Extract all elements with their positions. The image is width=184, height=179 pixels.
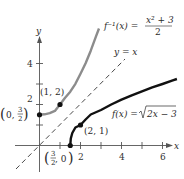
identity-line-label: y = x [113,47,137,57]
point-3-2-0 [68,143,73,148]
y-tick-label-2: 2 [27,94,33,104]
svg-text:): ) [68,150,73,166]
label-point-3-2-0: ( 3 2 , 0 ) [44,150,73,167]
inverse-function-curve [40,29,100,115]
svg-text:): ) [23,106,28,122]
x-axis-label: x [174,141,179,151]
svg-text:(: ( [0,106,5,122]
svg-text:f(x) =: f(x) = [111,109,138,119]
svg-text:x² + 3: x² + 3 [146,15,174,25]
point-0-3-2 [37,112,42,117]
y-axis-arrow-icon [37,36,42,43]
x-tick-label-2: 2 [78,152,84,162]
x-axis-arrow-icon [166,143,173,148]
svg-text:f⁻¹(x) =: f⁻¹(x) = [103,21,138,31]
y-axis-label: y [35,26,42,36]
function-inverse-graph: 2 4 6 2 4 x y (1, 2) (2, 1) ( 0, 3 2 ) (… [0,0,184,179]
y-tick-label-4: 4 [27,59,33,69]
function-equation: f(x) = 2x − 3 [111,106,177,119]
svg-text:2: 2 [18,115,22,123]
svg-text:0,: 0, [6,110,15,120]
point-1-2 [57,102,62,107]
label-point-0-3-2: ( 0, 3 2 ) [0,106,28,123]
svg-text:, 0: , 0 [55,154,67,164]
svg-text:2: 2 [155,27,161,37]
svg-text:(: ( [44,150,49,166]
inverse-function-equation: f⁻¹(x) = x² + 3 2 [103,15,174,37]
axes: 2 4 6 2 4 x y [15,26,179,172]
x-tick-label-6: 6 [160,152,166,162]
svg-text:3: 3 [18,106,22,114]
point-2-1 [78,122,83,127]
label-point-1-2: (1, 2) [40,87,64,97]
x-tick-label-4: 4 [119,152,125,162]
label-point-2-1: (2, 1) [84,126,108,136]
svg-text:2x − 3: 2x − 3 [146,109,177,119]
